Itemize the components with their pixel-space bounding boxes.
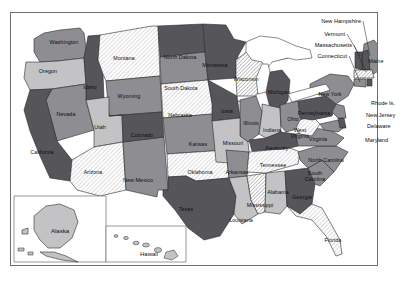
state-shape-newmexico: [123, 137, 168, 197]
callout-label-new-hampshire: New Hampshire: [321, 18, 361, 24]
state-shape-iowa: [208, 80, 240, 121]
state-shape-arkansas: [226, 150, 249, 178]
state-shape-rhodeisland: [367, 79, 372, 86]
state-shape-indiana: [259, 104, 281, 138]
callout-label-vermont: Vermont: [324, 31, 345, 37]
state-shape-arizona: [70, 142, 126, 196]
us-choropleth-map: Washington Oregon Idaho Montana North Da…: [0, 0, 408, 282]
state-shape-illinois: [240, 96, 262, 142]
state-shape-alabama: [265, 171, 287, 214]
state-shape-washington: [34, 28, 86, 62]
state-shape-montana: [98, 26, 160, 81]
right-label-maryland: Maryland: [365, 137, 388, 143]
state-shape-connecticut: [354, 79, 366, 87]
state-shape-northdakota: [158, 24, 205, 57]
callout-label-connecticut: Connecticut: [317, 53, 347, 59]
right-label-new-jersey: New Jersey: [366, 112, 395, 118]
state-shape-wyoming: [106, 76, 162, 116]
right-label-rhode-island: Rhode Is.: [371, 100, 395, 106]
state-shape-massachusetts: [354, 70, 374, 78]
inset-label-hawaii: Hawaii: [140, 251, 158, 257]
state-shape-florida: [287, 204, 342, 256]
inset-label-alaska: Alaska: [51, 228, 69, 234]
state-shape-southdakota: [160, 52, 208, 84]
state-shape-tennessee: [247, 148, 300, 173]
right-label-delaware: Delaware: [367, 123, 391, 129]
callout-label-massachusetts: Massachusetts: [315, 42, 352, 48]
